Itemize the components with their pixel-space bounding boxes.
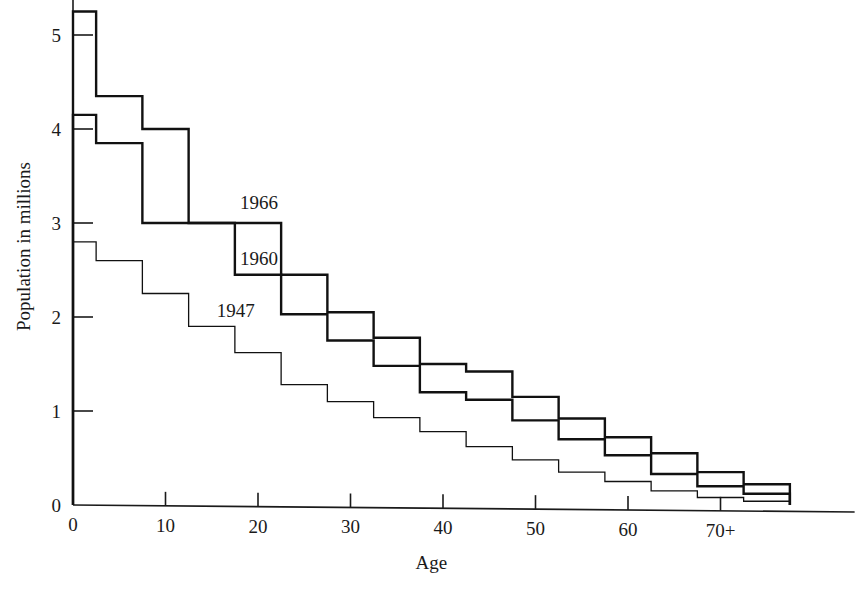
x-tick-label: 70+ [706,520,736,541]
y-tick-label: 3 [52,213,62,234]
series-annotation-1960: 1960 [240,248,278,269]
x-tick-label: 0 [68,514,78,535]
series-layer [73,12,790,506]
y-tick-label: 2 [52,307,62,328]
x-axis-line [73,505,855,512]
y-axis-title: Population in millions [13,162,34,331]
x-tick-label: 30 [341,516,360,537]
caption-strip [0,574,867,594]
labels-layer: 012345010203040506070+AgePopulation in m… [13,25,735,573]
series-line-1966 [73,12,790,506]
y-tick-label: 5 [52,25,62,46]
x-tick-label: 40 [434,517,453,538]
x-tick-label: 10 [156,515,175,536]
series-line-1947 [73,242,790,505]
x-tick-label: 50 [526,518,545,539]
y-tick-label: 0 [52,495,62,516]
series-annotation-1947: 1947 [217,300,255,321]
series-line-1960 [73,115,790,505]
y-tick-label: 1 [52,401,62,422]
y-tick-label: 4 [52,119,62,140]
x-axis-title: Age [416,552,448,573]
x-tick-label: 20 [249,516,268,537]
x-tick-label: 60 [619,519,638,540]
population-step-chart: 012345010203040506070+AgePopulation in m… [0,0,867,594]
series-annotation-1966: 1966 [240,192,278,213]
axes-layer [73,0,855,512]
chart-root: 012345010203040506070+AgePopulation in m… [0,0,867,594]
